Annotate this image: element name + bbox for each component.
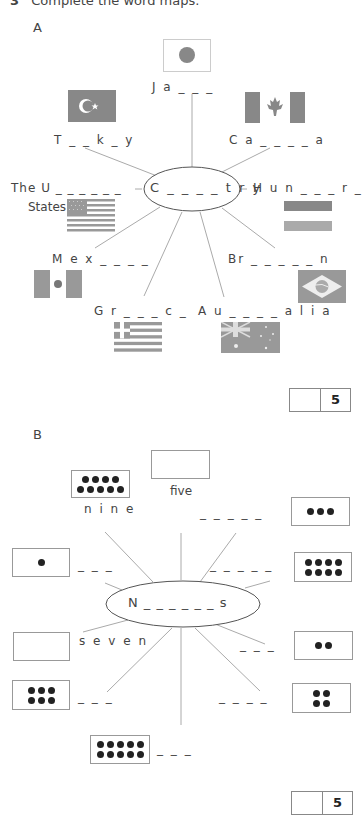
dots-box-nine [71, 470, 130, 498]
canada-flag-icon [245, 92, 305, 123]
dots-box-one [12, 548, 70, 577]
score-max-a: 5 [321, 389, 350, 411]
hungary-flag-icon [284, 201, 332, 231]
score-box-a: 5 [289, 388, 351, 412]
word-canada: C a _ _ _ _ a [229, 133, 325, 147]
score-input-a[interactable] [290, 389, 321, 411]
japan-flag-icon [163, 39, 211, 72]
word-australia: A u _ _ _ _ a l i a [198, 304, 332, 318]
word-usa-line2: States [28, 200, 66, 214]
word-two: _ _ _ [240, 638, 276, 652]
word-nine: n i n e [84, 502, 135, 516]
usa-flag-icon [67, 199, 115, 232]
word-hungary: H u n _ _ _ r _ [253, 181, 363, 195]
word-seven: s e v e n [79, 634, 148, 648]
word-three: _ _ _ _ _ [200, 506, 263, 520]
draw-box-five[interactable] [151, 450, 210, 479]
word-mexico: M e x _ _ _ _ [52, 252, 150, 266]
dots-box-ten [90, 735, 150, 764]
dots-box-three [291, 497, 350, 526]
dots-box-two [294, 631, 353, 660]
score-max-b: 5 [323, 792, 352, 814]
score-box-b: 5 [291, 791, 353, 815]
dots-box-eight [294, 552, 352, 582]
word-one: _ _ _ [78, 558, 114, 572]
score-input-b[interactable] [292, 792, 323, 814]
word-five: five [170, 484, 192, 498]
word-six: _ _ _ [78, 690, 114, 704]
word-japan: J a _ _ _ [152, 80, 214, 94]
word-turkey: T _ _ k _ y [54, 133, 134, 147]
center-word-country: C _ _ _ _ t r y [150, 180, 262, 195]
greece-flag-icon [114, 322, 162, 352]
australia-flag-icon [221, 322, 280, 353]
word-brazil: Br _ _ _ _ _ n [228, 252, 330, 266]
mexico-flag-icon [34, 270, 82, 298]
draw-box-seven[interactable] [13, 632, 70, 661]
word-eight: _ _ _ _ _ [210, 558, 273, 572]
center-word-numbers: N _ _ _ _ _ _ s [128, 595, 227, 610]
word-usa: The U _ _ _ _ _ _ [11, 181, 122, 195]
brazil-flag-icon [298, 270, 346, 303]
dots-box-four [292, 683, 351, 713]
word-greece: G r _ _ _ c _ [94, 304, 188, 318]
section-b-label: B [33, 427, 42, 442]
word-four: _ _ _ _ [219, 690, 268, 704]
turkey-flag-icon [68, 90, 116, 122]
word-ten: _ _ _ [157, 742, 193, 756]
dots-box-six [12, 680, 70, 710]
